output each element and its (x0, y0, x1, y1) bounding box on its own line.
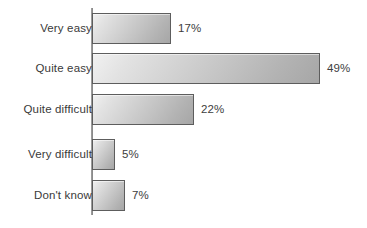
bar-very-easy (92, 13, 171, 44)
category-label: Quite easy (36, 53, 92, 84)
category-label: Very easy (40, 13, 92, 44)
bar-dont-know (92, 180, 125, 211)
bar-quite-difficult (92, 94, 194, 125)
category-label: Very difficult (28, 139, 92, 170)
bar-row: Don't know 7% (0, 180, 367, 211)
bar-quite-easy (92, 53, 320, 84)
value-label: 17% (178, 13, 201, 44)
bar-very-difficult (92, 139, 115, 170)
value-label: 22% (201, 94, 224, 125)
value-label: 7% (132, 180, 149, 211)
value-label: 49% (327, 53, 350, 84)
bar-row: Quite difficult 22% (0, 94, 367, 125)
category-label: Don't know (34, 180, 92, 211)
category-label: Quite difficult (23, 94, 92, 125)
value-label: 5% (122, 139, 139, 170)
bar-row: Very difficult 5% (0, 139, 367, 170)
bar-row: Quite easy 49% (0, 53, 367, 84)
bar-row: Very easy 17% (0, 13, 367, 44)
horizontal-bar-chart: Very easy 17% Quite easy 49% Quite diffi… (0, 0, 367, 228)
